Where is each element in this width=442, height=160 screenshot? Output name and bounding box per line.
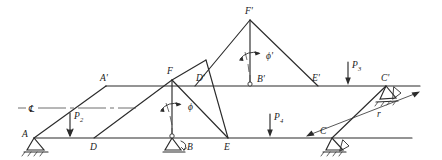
label-p3-sub: 3 bbox=[357, 65, 362, 72]
figure-canvas: A D B E C F A' D' B' E' C' F' P 2 P 3 P … bbox=[0, 0, 442, 160]
support-c bbox=[321, 138, 349, 156]
node-b-prime bbox=[248, 82, 252, 86]
load-arrow-p3 bbox=[345, 62, 351, 85]
support-c-prime bbox=[375, 86, 401, 106]
label-p4-sub: 4 bbox=[280, 117, 284, 124]
load-arrow-p4 bbox=[267, 114, 273, 137]
angle-marker-phi bbox=[160, 102, 182, 134]
load-arrow-p2 bbox=[67, 113, 73, 137]
statics-diagram-svg: A D B E C F A' D' B' E' C' F' P 2 P 3 P … bbox=[0, 0, 442, 160]
label-joint-f-prime: F' bbox=[244, 6, 254, 16]
label-joint-d: D bbox=[89, 142, 97, 152]
label-joint-c: C bbox=[320, 126, 327, 136]
label-joint-b: B bbox=[187, 142, 193, 152]
label-p2-letter: P bbox=[73, 111, 80, 121]
label-angle-phi-prime: ϕ' bbox=[266, 51, 274, 61]
support-a bbox=[22, 138, 48, 156]
label-p4-letter: P bbox=[273, 112, 280, 122]
member-d-f bbox=[94, 80, 172, 138]
label-joint-c-prime: C' bbox=[381, 73, 390, 83]
label-joint-a-prime: A' bbox=[99, 73, 109, 83]
label-joint-f: F bbox=[166, 66, 173, 76]
support-b bbox=[163, 134, 187, 152]
label-joint-b-prime: B' bbox=[257, 74, 266, 84]
label-joint-d-prime: D' bbox=[195, 73, 206, 83]
label-joint-e: E bbox=[223, 142, 230, 152]
label-joint-e-prime: E' bbox=[311, 73, 321, 83]
label-joint-a: A bbox=[21, 129, 28, 139]
label-load-p2: P 2 bbox=[73, 111, 84, 123]
label-p3-letter: P bbox=[351, 60, 358, 70]
label-load-p4: P 4 bbox=[273, 112, 284, 124]
centerline-symbol: ℄ bbox=[28, 104, 35, 114]
label-angle-phi: ϕ bbox=[188, 102, 193, 112]
label-p2-sub: 2 bbox=[80, 116, 84, 123]
label-load-p3: P 3 bbox=[351, 60, 362, 72]
label-dimension-r: r bbox=[377, 109, 381, 119]
